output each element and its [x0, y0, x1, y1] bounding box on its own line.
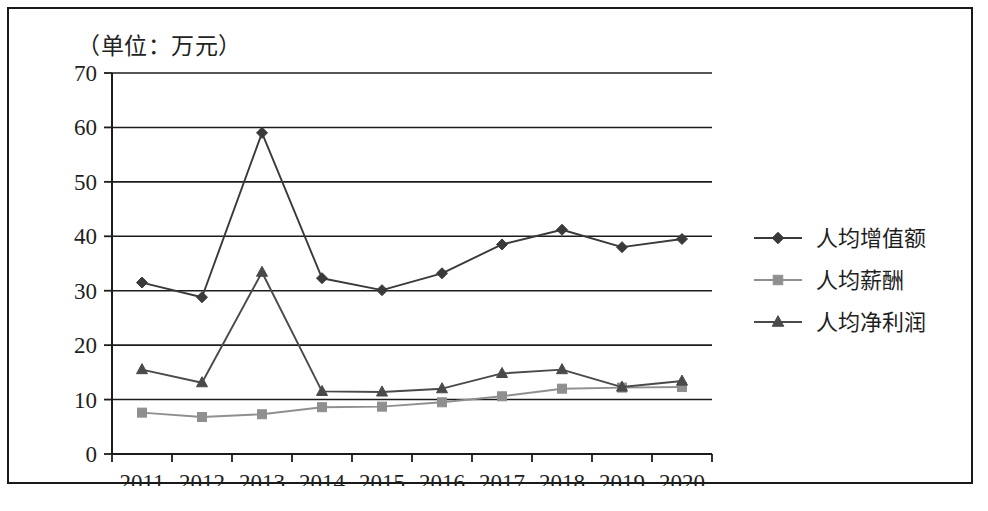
y-axis-labels-group: 010203040506070 — [74, 61, 97, 467]
y-tick-label: 40 — [74, 224, 97, 249]
data-point-marker — [557, 224, 568, 235]
data-point-marker — [257, 266, 268, 276]
x-tick-label: 2020 — [659, 470, 705, 486]
y-tick-label: 60 — [74, 115, 97, 140]
data-point-marker — [138, 408, 147, 417]
data-series-group — [137, 127, 688, 421]
series-1 — [137, 127, 688, 302]
x-tick-label: 2018 — [539, 470, 585, 486]
y-tick-label: 30 — [74, 279, 97, 304]
data-point-marker — [378, 402, 387, 411]
legend-label: 人均净利润 — [816, 310, 926, 335]
x-tick-label: 2014 — [299, 470, 346, 486]
data-point-marker — [438, 398, 447, 407]
y-tick-label: 10 — [74, 388, 97, 413]
data-point-marker — [137, 277, 148, 288]
legend-item-2[interactable]: 人均薪酬 — [754, 268, 904, 293]
data-point-marker — [317, 273, 328, 284]
data-point-marker — [318, 403, 327, 412]
y-tick-label: 70 — [74, 61, 97, 86]
legend-label: 人均薪酬 — [816, 268, 904, 293]
data-point-marker — [257, 127, 268, 138]
legend-item-1[interactable]: 人均增值额 — [754, 226, 926, 251]
square-marker-icon — [773, 275, 782, 284]
x-tick-label: 2019 — [599, 470, 645, 486]
series-2 — [138, 383, 687, 422]
data-point-marker — [557, 364, 568, 374]
chart-legend: 人均增值额人均薪酬人均净利润 — [754, 226, 926, 335]
y-tick-label: 50 — [74, 170, 97, 195]
legend-item-3[interactable]: 人均净利润 — [754, 310, 926, 335]
triangle-marker-icon — [772, 316, 784, 327]
legend-label: 人均增值额 — [816, 226, 926, 251]
y-tick-label: 20 — [74, 333, 97, 358]
x-tick-label: 2016 — [419, 470, 465, 486]
data-point-marker — [258, 410, 267, 419]
series-3 — [137, 266, 688, 396]
series-line — [142, 133, 682, 297]
chart-frame: （单位：万元） 010203040506070 2011201220132014… — [7, 7, 973, 484]
data-point-marker — [377, 285, 388, 296]
data-point-marker — [317, 385, 328, 395]
chart-page: （单位：万元） 010203040506070 2011201220132014… — [0, 0, 988, 511]
data-point-marker — [498, 392, 507, 401]
data-point-marker — [437, 268, 448, 279]
data-point-marker — [558, 384, 567, 393]
data-point-marker — [677, 375, 688, 385]
y-tick-label: 0 — [86, 442, 98, 467]
data-point-marker — [197, 292, 208, 303]
data-point-marker — [497, 239, 508, 250]
x-axis-labels-group: 2011201220132014201520162017201820192020 — [119, 470, 705, 486]
x-tick-label: 2013 — [239, 470, 285, 486]
x-tick-label: 2011 — [119, 470, 164, 486]
x-tick-label: 2015 — [359, 470, 405, 486]
axis-ticks-group — [104, 73, 712, 462]
data-point-marker — [137, 364, 148, 374]
x-tick-label: 2012 — [179, 470, 225, 486]
x-tick-label: 2017 — [479, 470, 525, 486]
data-point-marker — [198, 412, 207, 421]
diamond-marker-icon — [772, 232, 784, 244]
series-line — [142, 387, 682, 417]
gridlines-group — [112, 73, 712, 454]
data-point-marker — [617, 242, 628, 253]
line-chart-canvas: 010203040506070 201120122013201420152016… — [9, 9, 975, 486]
data-point-marker — [677, 234, 688, 245]
